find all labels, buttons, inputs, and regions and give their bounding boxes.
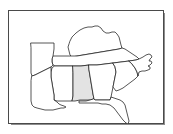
state-florida: Florida bbox=[79, 97, 129, 124]
states-layer: KentuckyTennesseeArkansasMississippiLoui… bbox=[31, 26, 152, 124]
map-canvas: KentuckyTennesseeArkansasMississippiLoui… bbox=[9, 11, 165, 125]
southeast-us-map-figure: KentuckyTennesseeArkansasMississippiLoui… bbox=[0, 0, 173, 134]
map-frame-border: KentuckyTennesseeArkansasMississippiLoui… bbox=[8, 10, 164, 124]
state-georgia: Georgia bbox=[89, 63, 116, 100]
